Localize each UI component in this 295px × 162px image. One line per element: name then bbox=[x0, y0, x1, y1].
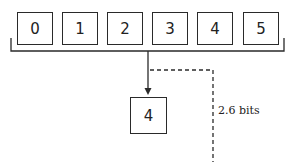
input-box-5: 5 bbox=[243, 12, 279, 45]
input-box-0: 0 bbox=[17, 12, 53, 45]
input-box-1: 1 bbox=[62, 12, 98, 45]
input-box-2: 2 bbox=[107, 12, 143, 45]
input-box-4: 4 bbox=[197, 12, 233, 45]
output-box: 4 bbox=[130, 97, 167, 134]
arrow-head-icon bbox=[145, 88, 152, 95]
information-label: 2.6 bits bbox=[218, 104, 260, 117]
input-box-3: 3 bbox=[152, 12, 188, 45]
